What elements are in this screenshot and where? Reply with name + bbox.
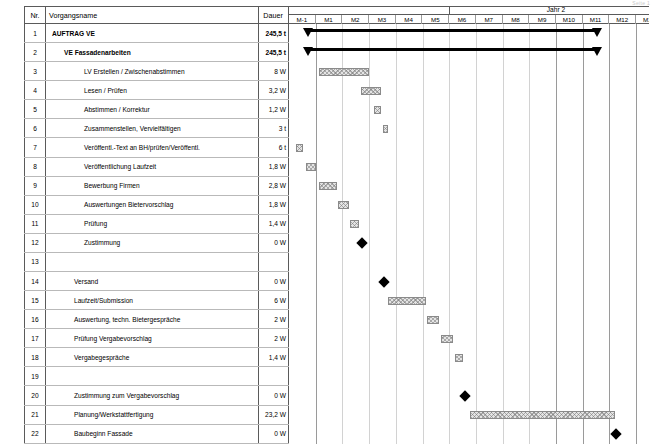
task-bar[interactable] bbox=[427, 316, 439, 324]
task-table: Nr. Vorgangsname Dauer 1AUFTRAG VE245,5 … bbox=[24, 6, 289, 444]
table-row[interactable]: 5Abstimmen / Korrektur1,2 W bbox=[24, 100, 289, 119]
timeline-gridline bbox=[529, 24, 530, 444]
task-bar[interactable] bbox=[470, 411, 615, 419]
table-row[interactable]: 11Prüfung1,4 W bbox=[24, 215, 289, 234]
timeline-gridline bbox=[636, 24, 637, 444]
row-duration: 6 W bbox=[259, 291, 289, 309]
row-task-name bbox=[46, 253, 259, 271]
year-separator bbox=[449, 6, 450, 15]
table-row[interactable]: 9Bewerbung Firmen2,8 W bbox=[24, 177, 289, 196]
task-bar[interactable] bbox=[350, 220, 359, 228]
task-bar[interactable] bbox=[306, 163, 317, 171]
row-task-name: Lesen / Prüfen bbox=[46, 81, 259, 99]
row-task-name: Versand bbox=[46, 272, 259, 290]
timeline-bars-area bbox=[289, 24, 649, 444]
row-duration: 2 W bbox=[259, 310, 289, 328]
table-row[interactable]: 16Auswertung, techn. Bietergespräche2 W bbox=[24, 310, 289, 329]
task-bar[interactable] bbox=[383, 125, 388, 133]
task-bar[interactable] bbox=[296, 144, 302, 152]
row-number: 2 bbox=[24, 43, 46, 61]
row-number: 3 bbox=[24, 62, 46, 80]
year-label: Jahr 2 bbox=[449, 6, 649, 13]
row-duration: 3,2 W bbox=[259, 81, 289, 99]
table-row[interactable]: 1AUFTRAG VE245,5 t bbox=[24, 24, 289, 43]
row-task-name: Bewerbung Firmen bbox=[46, 177, 259, 195]
row-duration: 245,5 t bbox=[259, 43, 289, 61]
milestone-marker[interactable] bbox=[357, 238, 368, 249]
row-task-name: Auswertung, techn. Bietergespräche bbox=[46, 310, 259, 328]
header-nr: Nr. bbox=[24, 6, 46, 24]
task-bar[interactable] bbox=[319, 68, 369, 76]
table-row[interactable]: 12Zustimmung0 W bbox=[24, 234, 289, 253]
row-task-name: Abstimmen / Korrektur bbox=[46, 100, 259, 118]
timeline-gridline bbox=[423, 24, 424, 444]
row-task-name bbox=[46, 367, 259, 385]
milestone-marker[interactable] bbox=[610, 429, 621, 440]
row-number: 13 bbox=[24, 253, 46, 271]
row-duration: 6 t bbox=[259, 138, 289, 156]
row-duration: 23,2 W bbox=[259, 406, 289, 424]
summary-bar[interactable] bbox=[306, 48, 599, 51]
row-number: 1 bbox=[24, 24, 46, 42]
task-bar[interactable] bbox=[374, 106, 381, 114]
row-task-name: LV Erstellen / Zwischenabstimmen bbox=[46, 62, 259, 80]
table-row[interactable]: 21Planung/Werkstattfertigung23,2 W bbox=[24, 406, 289, 425]
table-row[interactable]: 8Veröffentlichung Laufzeit1,8 W bbox=[24, 158, 289, 177]
month-header-cell: M10 bbox=[556, 15, 583, 24]
table-row[interactable]: 19 bbox=[24, 367, 289, 386]
row-task-name: VE Fassadenarbeiten bbox=[46, 43, 259, 61]
task-bar[interactable] bbox=[388, 297, 425, 305]
table-row[interactable]: 13 bbox=[24, 253, 289, 272]
row-duration: 0 W bbox=[259, 425, 289, 443]
table-row[interactable]: 3LV Erstellen / Zwischenabstimmen8 W bbox=[24, 62, 289, 81]
row-task-name: Zusammenstellen, Vervielfältigen bbox=[46, 119, 259, 137]
row-number: 4 bbox=[24, 81, 46, 99]
gantt-chart-page: Seite 1 Nr. Vorgangsname Dauer 1AUFTRAG … bbox=[0, 0, 653, 447]
row-number: 21 bbox=[24, 406, 46, 424]
month-header-cell: M2 bbox=[342, 15, 369, 24]
timeline-gridline bbox=[476, 24, 477, 444]
table-row[interactable]: 20Zustimmung zum Vergabevorschlag0 W bbox=[24, 386, 289, 405]
row-number: 22 bbox=[24, 425, 46, 443]
row-duration bbox=[259, 367, 289, 385]
row-number: 8 bbox=[24, 158, 46, 176]
table-row[interactable]: 18Vergabegespräche1,4 W bbox=[24, 348, 289, 367]
table-row[interactable]: 17Prüfung Vergabevorschlag2 W bbox=[24, 329, 289, 348]
row-number: 5 bbox=[24, 100, 46, 118]
timeline-gridline bbox=[342, 24, 343, 444]
month-header-cell: M7 bbox=[476, 15, 503, 24]
table-row[interactable]: 2VE Fassadenarbeiten245,5 t bbox=[24, 43, 289, 62]
row-number: 12 bbox=[24, 234, 46, 252]
row-number: 15 bbox=[24, 291, 46, 309]
row-duration: 245,5 t bbox=[259, 24, 289, 42]
timeline-gridline bbox=[316, 24, 317, 444]
table-row[interactable]: 22Baubeginn Fassade0 W bbox=[24, 425, 289, 444]
task-bar[interactable] bbox=[455, 354, 463, 362]
timeline-gridline bbox=[583, 24, 584, 444]
task-bar[interactable] bbox=[361, 87, 381, 95]
timeline-gridline bbox=[449, 24, 450, 444]
row-task-name: Veröffentlichung Laufzeit bbox=[46, 158, 259, 176]
table-row[interactable]: 14Versand0 W bbox=[24, 272, 289, 291]
table-row[interactable]: 10Auswertungen Bietervorschlag1,8 W bbox=[24, 196, 289, 215]
table-row[interactable]: 6Zusammenstellen, Vervielfältigen3 t bbox=[24, 119, 289, 138]
summary-bar[interactable] bbox=[306, 29, 599, 32]
table-row[interactable]: 4Lesen / Prüfen3,2 W bbox=[24, 81, 289, 100]
row-duration: 0 W bbox=[259, 234, 289, 252]
month-header-cell: M13 bbox=[636, 15, 649, 24]
milestone-marker[interactable] bbox=[460, 390, 471, 401]
task-bar[interactable] bbox=[319, 182, 337, 190]
milestone-marker[interactable] bbox=[378, 276, 389, 287]
header-name: Vorgangsname bbox=[49, 6, 249, 24]
task-bar[interactable] bbox=[338, 201, 349, 209]
header-duration: Dauer bbox=[259, 6, 287, 24]
table-row[interactable]: 7Veröffentl.-Text an BH/prüfen/Veröffent… bbox=[24, 138, 289, 157]
timeline-gridline bbox=[556, 24, 557, 444]
task-bar[interactable] bbox=[441, 335, 453, 343]
row-duration: 1,4 W bbox=[259, 215, 289, 233]
month-header-cell: M4 bbox=[396, 15, 423, 24]
row-number: 11 bbox=[24, 215, 46, 233]
row-task-name: Prüfung bbox=[46, 215, 259, 233]
month-header-cell: M3 bbox=[369, 15, 396, 24]
table-row[interactable]: 15Laufzeit/Submission6 W bbox=[24, 291, 289, 310]
